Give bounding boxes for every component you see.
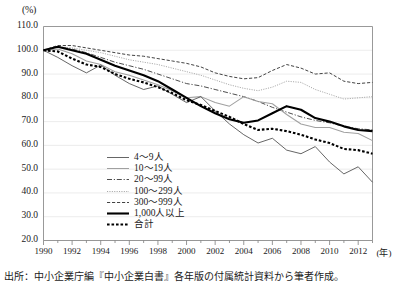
y-axis-tick-label: 40.0 [2,186,38,196]
legend-item-label: 合計 [134,219,154,230]
legend-item-label: 300～999人 [134,197,183,208]
y-axis-tick-label: 50.0 [2,163,38,173]
legend-line-swatch-icon [106,163,130,174]
y-axis-tick-label: 30.0 [2,210,38,220]
y-axis-tick-label: 60.0 [2,139,38,149]
y-axis-tick-label: 20.0 [2,234,38,244]
x-axis-tick-label: 2012 [341,246,375,256]
legend-item: 300～999人 [106,197,185,208]
y-axis-tick-label: 70.0 [2,115,38,125]
data-series-line [44,50,373,153]
legend-item-label: 10～19人 [134,163,173,174]
legend-item: 20～99人 [106,174,185,185]
legend-item: 合計 [106,219,185,230]
legend-item-label: 20～99人 [134,174,173,185]
data-series-line [44,47,373,130]
data-series-line [44,49,373,141]
legend-item-label: 100～299人 [134,186,183,197]
x-axis-unit-label: (年) [377,246,392,259]
chart-figure: (%) 110.0100.090.080.070.060.050.040.030… [0,0,397,288]
y-axis-unit-label: (%) [22,4,36,15]
source-note: 出所：中小企業庁編『中小企業白書』各年版の付属統計資料から筆者作成。 [4,268,344,283]
legend-line-swatch-icon [106,186,130,197]
y-axis-tick-label: 100.0 [2,44,38,54]
legend-item: 4～9人 [106,152,185,163]
chart-legend: 4～9人10～19人20～99人100～299人300～999人1,000人以上… [106,152,185,230]
legend-line-swatch-icon [106,174,130,185]
legend-line-swatch-icon [106,208,130,219]
legend-item-label: 4～9人 [134,152,164,163]
legend-line-swatch-icon [106,197,130,208]
legend-item: 10～19人 [106,163,185,174]
data-series-line [44,47,373,131]
legend-item-label: 1,000人以上 [134,208,185,219]
y-axis-tick-label: 110.0 [2,20,38,30]
legend-item: 1,000人以上 [106,208,185,219]
legend-line-swatch-icon [106,219,130,230]
y-axis-tick-label: 80.0 [2,91,38,101]
legend-item: 100～299人 [106,186,185,197]
y-axis-tick-label: 90.0 [2,68,38,78]
legend-line-swatch-icon [106,152,130,163]
